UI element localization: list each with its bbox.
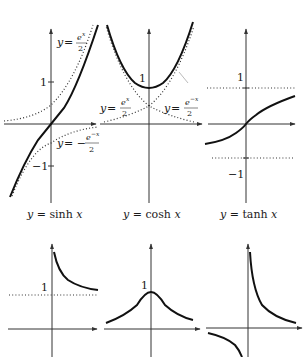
tick-label-1: 1 xyxy=(40,76,47,89)
svg-text:=: = xyxy=(64,36,73,49)
label-neg-e-negx-over-2: y = − e −x 2 xyxy=(56,130,100,154)
svg-text:y = sinh x: y = sinh x xyxy=(26,208,83,221)
label-ex-over-2: y = e x 2 xyxy=(56,30,87,53)
tick-label-1: 1 xyxy=(139,72,146,85)
svg-text:y: y xyxy=(163,102,171,115)
label-e-negx-over-2: y = e −x 2 xyxy=(163,95,199,118)
caption-cosh: y = cosh x xyxy=(122,208,181,221)
hyperbolic-functions-figure: 1 −1 y = e x 2 y = − e −x 2 y = sinh x xyxy=(0,0,304,357)
csch-curve-positive xyxy=(250,252,296,323)
svg-text:x: x xyxy=(126,95,130,102)
svg-text:2: 2 xyxy=(187,109,192,118)
svg-text:y: y xyxy=(99,102,107,115)
caption-sinh: y = sinh x xyxy=(26,208,83,221)
svg-text:2: 2 xyxy=(122,109,127,118)
svg-text:y: y xyxy=(56,36,64,49)
tick-label-1: 1 xyxy=(237,71,244,84)
coth-curve xyxy=(54,252,98,290)
tanh-curve xyxy=(205,96,295,144)
svg-text:−x: −x xyxy=(91,130,100,137)
svg-text:x: x xyxy=(82,30,86,37)
panel-tanh: 1 −1 y = tanh x xyxy=(205,29,296,221)
tick-label-1: 1 xyxy=(41,281,48,294)
caption-tanh: y = tanh x xyxy=(219,208,278,221)
svg-text:y = cosh x: y = cosh x xyxy=(122,208,181,221)
label-ex-over-2: y = e x 2 xyxy=(99,95,131,118)
tick-label-neg1: −1 xyxy=(228,168,244,181)
svg-text:y: y xyxy=(56,137,64,150)
svg-text:= −: = − xyxy=(64,137,86,150)
svg-text:2: 2 xyxy=(89,145,94,154)
svg-text:2: 2 xyxy=(78,44,83,53)
panel-sinh: 1 −1 y = e x 2 y = − e −x 2 y = sinh x xyxy=(4,25,100,221)
scan-artifact xyxy=(179,72,188,83)
panel-coth: 1 xyxy=(8,244,98,357)
panel-sech: 1 xyxy=(104,244,200,357)
tick-label-1: 1 xyxy=(141,279,148,292)
panel-csch xyxy=(206,244,302,357)
csch-curve-negative xyxy=(208,333,242,357)
svg-text:y = tanh x: y = tanh x xyxy=(219,208,278,221)
svg-text:=: = xyxy=(107,102,116,115)
svg-text:=: = xyxy=(171,102,180,115)
cosh-curve xyxy=(107,22,193,88)
svg-text:−x: −x xyxy=(190,95,199,102)
sinh-curve xyxy=(10,25,98,197)
sech-curve xyxy=(106,292,193,323)
panel-cosh: 1 y = e x 2 y = e −x 2 y = cosh x xyxy=(99,22,202,221)
tick-label-neg1: −1 xyxy=(32,160,48,173)
